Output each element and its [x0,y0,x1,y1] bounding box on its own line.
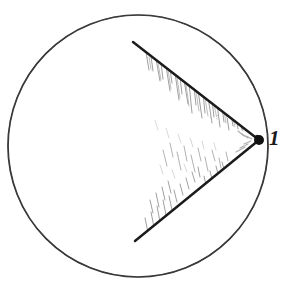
page-background [0,0,301,295]
geometry-figure: 1 [0,0,301,295]
vertex-label-1: 1 [269,128,280,149]
figure-canvas [0,0,301,295]
inscribed-angle-vertex-dot-spur [255,135,259,139]
